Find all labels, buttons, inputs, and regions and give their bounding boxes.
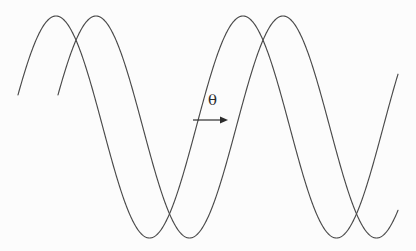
- wave-diagram-svg: [0, 0, 416, 251]
- wave-group: [18, 16, 398, 238]
- wave-phase-shift-figure: θ: [0, 0, 416, 251]
- theta-symbol-label: θ: [208, 93, 217, 108]
- sine-wave-2: [58, 16, 398, 238]
- phase-arrow-head-icon: [220, 117, 228, 124]
- sine-wave-1: [18, 16, 398, 238]
